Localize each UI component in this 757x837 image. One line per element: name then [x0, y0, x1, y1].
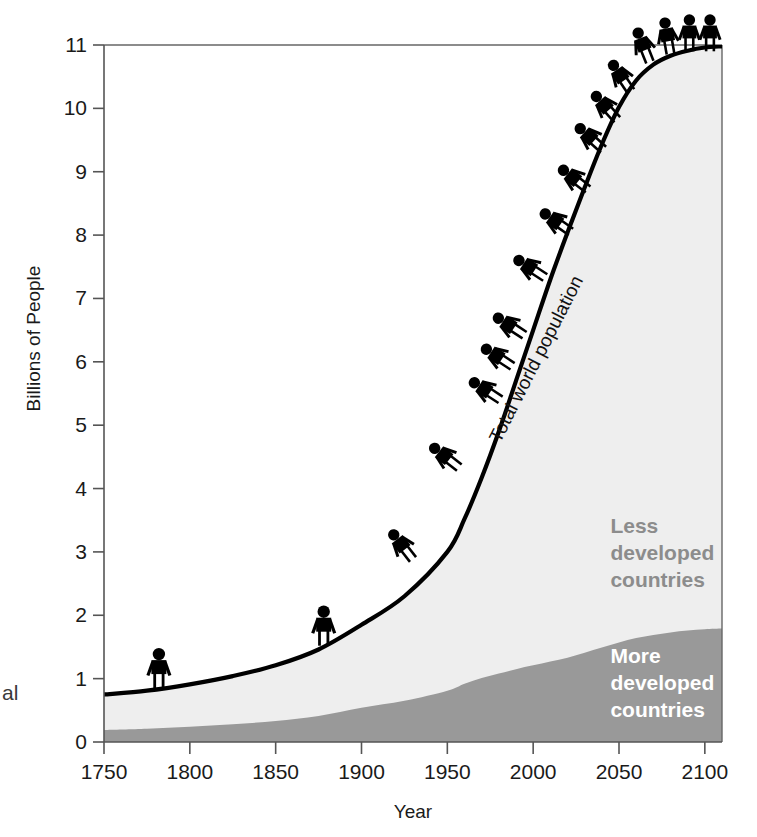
less-developed-label-line: countries	[610, 568, 705, 591]
stacked-area-bands	[104, 46, 722, 742]
x-tick-label: 2050	[596, 760, 643, 783]
human-figure-icon	[678, 14, 701, 51]
less-developed-label-line: developed	[610, 541, 714, 564]
caption-fragment: al	[2, 681, 18, 704]
x-tick-label: 2100	[681, 760, 728, 783]
x-tick-label: 1800	[166, 760, 213, 783]
y-tick-label: 5	[75, 413, 87, 436]
human-figure-icon	[475, 337, 519, 376]
human-figure-icon	[381, 523, 422, 566]
y-tick-label: 3	[75, 540, 87, 563]
y-tick-label: 11	[65, 33, 87, 56]
area-band-less-developed-countries	[104, 46, 722, 742]
y-axis-title: Billions of People	[23, 266, 44, 412]
more-developed-label-line: countries	[610, 698, 705, 721]
y-tick-label: 6	[75, 350, 87, 373]
x-tick-label: 2000	[510, 760, 557, 783]
less-developed-label-line: Less	[610, 514, 658, 537]
human-figure-icon	[463, 370, 507, 409]
x-tick-label: 1900	[338, 760, 385, 783]
more-developed-label-line: More	[610, 644, 660, 667]
y-tick-label: 9	[75, 160, 87, 183]
y-tick-label: 2	[75, 603, 87, 626]
population-chart: 0123456789101117501800185019001950200020…	[0, 0, 757, 837]
human-figure-icon	[423, 436, 466, 477]
x-tick-label: 1950	[424, 760, 471, 783]
human-figure-icon	[653, 15, 682, 55]
y-tick-label: 4	[75, 477, 87, 500]
human-figure-icon	[146, 648, 171, 688]
x-tick-label: 1850	[252, 760, 299, 783]
x-axis-title: Year	[394, 801, 433, 822]
y-tick-label: 7	[75, 286, 87, 309]
y-tick-label: 1	[75, 667, 87, 690]
y-tick-label: 0	[75, 730, 87, 753]
x-tick-label: 1750	[81, 760, 128, 783]
more-developed-label-line: developed	[610, 671, 714, 694]
human-figure-icon	[508, 248, 552, 287]
human-figure-icon	[487, 305, 531, 344]
y-tick-label: 8	[75, 223, 87, 246]
y-tick-label: 10	[64, 96, 87, 119]
human-figure-icon	[311, 606, 336, 646]
